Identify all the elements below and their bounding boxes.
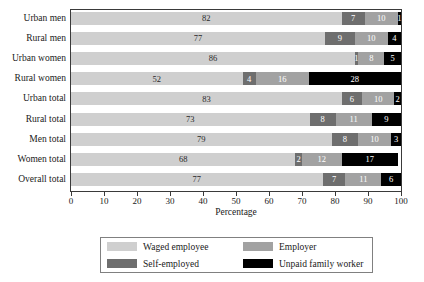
x-axis-tick-label: 20 <box>124 196 150 206</box>
bar-segment: 3 <box>391 133 401 146</box>
bar-segment: 68 <box>71 153 295 166</box>
legend-label: Employer <box>279 242 316 252</box>
x-axis-tick-label: 30 <box>157 196 183 206</box>
bar-segment-value: 6 <box>350 95 354 104</box>
y-axis-label: Men total <box>0 133 66 146</box>
bar-segment: 7 <box>323 173 346 186</box>
legend-item[interactable]: Unpaid family worker <box>243 255 380 272</box>
x-axis-tick-label: 60 <box>256 196 282 206</box>
bar-segment-value: 11 <box>350 115 358 124</box>
x-axis-tick-label: 80 <box>322 196 348 206</box>
x-axis-tick-label: 40 <box>190 196 216 206</box>
bar-segment: 1 <box>398 12 401 25</box>
bar-segment: 10 <box>358 133 391 146</box>
bar-row: 5241628 <box>71 72 401 85</box>
bar-segment-value: 28 <box>351 75 360 84</box>
bar-segment-value: 7 <box>332 175 336 184</box>
legend-label: Self-employed <box>143 259 199 269</box>
bars-layer: 8271017791048618552416288361027381197981… <box>71 10 401 191</box>
bar-segment: 73 <box>71 113 310 126</box>
bar-segment: 2 <box>295 153 302 166</box>
bar-segment: 2 <box>394 92 401 105</box>
legend-swatch-icon <box>243 242 273 251</box>
bar-segment: 7 <box>342 12 365 25</box>
bar-segment-value: 73 <box>186 115 195 124</box>
bar-segment-value: 68 <box>179 155 188 164</box>
bar-segment-value: 8 <box>369 54 373 63</box>
bar-segment: 10 <box>362 92 395 105</box>
bar-segment: 11 <box>336 113 372 126</box>
bar-segment: 17 <box>342 153 398 166</box>
y-axis-label: Urban total <box>0 92 66 105</box>
legend-item[interactable]: Waged employee <box>107 238 243 255</box>
stacked-bar-chart: Urban menRural menUrban womenRural women… <box>0 0 424 282</box>
bar-segment: 4 <box>388 32 401 45</box>
bar-segment-value: 79 <box>197 135 206 144</box>
legend-swatch-icon <box>243 259 273 268</box>
bar-segment: 77 <box>71 173 323 186</box>
bar-segment-value: 2 <box>396 95 400 104</box>
bar-segment: 10 <box>355 32 388 45</box>
bar-segment-value: 9 <box>384 115 388 124</box>
bar-segment: 83 <box>71 92 342 105</box>
y-axis-label: Urban men <box>0 12 66 25</box>
bar-segment-value: 52 <box>153 75 162 84</box>
bar-segment-value: 77 <box>193 175 202 184</box>
x-axis-tick-label: 100 <box>388 196 414 206</box>
bar-segment: 8 <box>358 52 384 65</box>
bar-segment: 28 <box>309 72 401 85</box>
bar-row: 777116 <box>71 173 401 186</box>
bar-segment-value: 82 <box>202 14 211 23</box>
legend-swatch-icon <box>107 242 137 251</box>
legend-item[interactable]: Employer <box>243 238 380 255</box>
bar-segment-value: 17 <box>365 155 374 164</box>
x-axis-tick-label: 70 <box>289 196 315 206</box>
bar-segment: 8 <box>310 113 336 126</box>
x-axis-tick-label: 10 <box>91 196 117 206</box>
bar-segment: 6 <box>342 92 362 105</box>
bar-segment-value: 83 <box>202 95 211 104</box>
bar-row: 738119 <box>71 113 401 126</box>
bar-segment: 77 <box>71 32 325 45</box>
bar-segment-value: 8 <box>320 115 324 124</box>
legend-item[interactable]: Self-employed <box>107 255 243 272</box>
bar-segment-value: 6 <box>389 175 393 184</box>
bar-segment: 16 <box>256 72 309 85</box>
bar-segment-value: 10 <box>367 34 376 43</box>
x-axis-title: Percentage <box>70 207 402 217</box>
bar-row: 798103 <box>71 133 401 146</box>
bar-segment-value: 86 <box>209 54 218 63</box>
y-axis-label: Rural women <box>0 72 66 85</box>
y-axis-label: Overall total <box>0 173 66 186</box>
bar-segment-value: 10 <box>374 95 383 104</box>
bar-segment-value: 4 <box>247 75 251 84</box>
bar-segment-value: 11 <box>359 175 367 184</box>
bar-segment: 8 <box>332 133 358 146</box>
y-axis-label: Rural total <box>0 113 66 126</box>
bar-row: 779104 <box>71 32 401 45</box>
y-axis-label: Urban women <box>0 52 66 65</box>
legend-label: Unpaid family worker <box>279 259 363 269</box>
bar-segment-value: 2 <box>297 155 301 164</box>
bar-segment-value: 5 <box>391 54 395 63</box>
x-axis-tick-label: 0 <box>58 196 84 206</box>
bar-segment: 52 <box>71 72 243 85</box>
bar-segment-value: 8 <box>343 135 347 144</box>
bar-segment-value: 9 <box>338 34 342 43</box>
bar-row: 827101 <box>71 12 401 25</box>
bar-segment-value: 1 <box>397 14 401 23</box>
bar-segment: 12 <box>302 153 342 166</box>
x-axis: 0102030405060708090100 <box>70 192 402 208</box>
bar-segment-value: 10 <box>370 135 379 144</box>
bar-segment: 9 <box>325 32 355 45</box>
bar-segment: 79 <box>71 133 332 146</box>
bar-segment: 5 <box>384 52 401 65</box>
bar-segment-value: 10 <box>377 14 386 23</box>
bar-segment: 11 <box>345 173 381 186</box>
legend-label: Waged employee <box>143 242 208 252</box>
bar-segment-value: 7 <box>351 14 355 23</box>
bar-row: 836102 <box>71 92 401 105</box>
x-axis-tick-label: 90 <box>355 196 381 206</box>
bar-segment-value: 3 <box>394 135 398 144</box>
bar-segment: 10 <box>365 12 398 25</box>
